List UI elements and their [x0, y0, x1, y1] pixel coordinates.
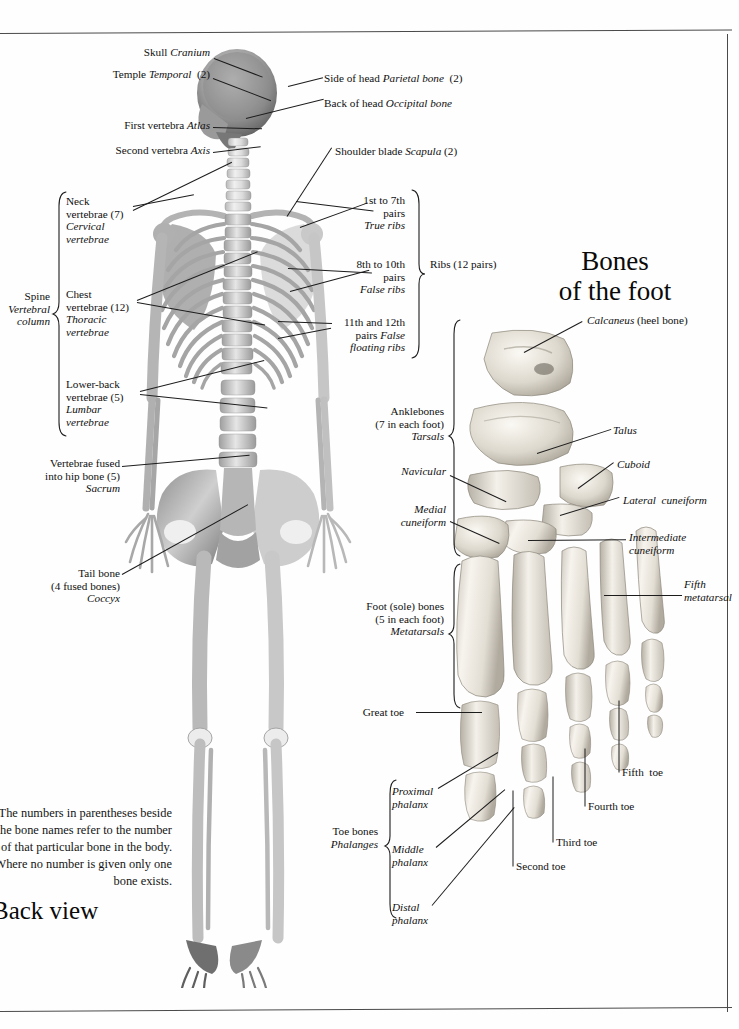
label-sacrum: Vertebrae fusedinto hip bone (5)Sacrum — [0, 457, 120, 495]
label-temple: Temple Temporal (2) — [20, 68, 210, 81]
numbers-explanation-note: The numbers in parentheses besidethe bon… — [0, 805, 172, 890]
pelvis-group — [157, 468, 319, 568]
label-fifth-metatarsal: Fifthmetatarsal — [684, 578, 739, 603]
navicular-bone — [468, 470, 541, 509]
page-border-right — [727, 34, 728, 1012]
label-calcaneus: Calcaneus (heel bone) — [587, 314, 737, 327]
brace-ribs — [410, 188, 426, 360]
label-navicular: Navicular — [330, 465, 446, 478]
label-second-toe: Second toe — [516, 860, 606, 873]
label-great-toe: Great toe — [300, 706, 404, 719]
brace-spine — [52, 190, 68, 438]
skull-group — [197, 49, 277, 150]
label-talus: Talus — [613, 424, 703, 437]
label-tarsals: Anklebones(7 in each foot)Tarsals — [348, 405, 444, 443]
label-cuboid: Cuboid — [617, 458, 707, 471]
label-middle-phalanx: Middlephalanx — [392, 843, 464, 868]
label-true-ribs: 1st to 7thpairsTrue ribs — [340, 194, 405, 232]
heading-back-view: Back view — [0, 897, 192, 924]
talus-bone — [470, 402, 573, 465]
label-thoracic-vertebrae: Chestvertebrae (12)Thoracicvertebrae — [66, 288, 156, 338]
label-first-vertebra: First vertebra Atlas — [20, 119, 210, 132]
label-skull: Skull Cranium — [30, 46, 210, 59]
label-side-of-head: Side of head Parietal bone (2) — [324, 72, 554, 85]
label-spine: SpineVertebralcolumn — [0, 290, 50, 328]
page-canvas: Skull Cranium Temple Temporal (2) First … — [0, 0, 739, 1029]
label-third-toe: Third toe — [556, 836, 646, 849]
label-distal-phalanx: Distalphalanx — [392, 901, 464, 926]
lumbar-spine-group — [219, 380, 257, 467]
leader-third-toe — [553, 777, 554, 843]
label-coccyx: Tail bone(4 fused bones)Coccyx — [0, 567, 120, 605]
label-back-of-head: Back of head Occipital bone — [324, 97, 554, 110]
label-phalanges: Toe bonesPhalanges — [294, 825, 378, 850]
label-floating-ribs: 11th and 12thpairs Falsefloating ribs — [332, 316, 405, 354]
leader-fourth-toe — [585, 749, 586, 807]
heading-bones-of-the-foot: Bonesof the foot — [515, 246, 715, 306]
label-fifth-toe: Fifth toe — [622, 766, 712, 779]
medial-cuneiform-bone — [454, 516, 509, 558]
label-shoulder-blade: Shoulder blade Scapula (2) — [335, 145, 565, 158]
label-medial-cuneiform: Medialcuneiform — [330, 503, 446, 528]
intermediate-cuneiform-bone — [502, 520, 556, 554]
page-border-top — [0, 29, 732, 34]
leader-fifth-toe — [619, 701, 620, 773]
leader-fifth-metatarsal — [604, 595, 682, 596]
label-intermediate-cuneiform: Intermediatecuneiform — [629, 531, 739, 556]
calcaneus-bone — [484, 330, 573, 396]
leader-great-toe — [416, 712, 482, 713]
label-fourth-toe: Fourth toe — [588, 800, 678, 813]
legs-group — [182, 558, 288, 988]
leader-second-toe — [513, 791, 514, 867]
page-border-bottom — [0, 1007, 732, 1012]
label-lumbar-vertebrae: Lower-backvertebrae (5)Lumbarvertebrae — [66, 378, 161, 428]
label-false-ribs: 8th to 10thpairsFalse ribs — [340, 258, 405, 296]
label-lateral-cuneiform: Lateral cuneiform — [623, 494, 739, 507]
brace-metatarsals — [448, 562, 462, 710]
label-cervical-vertebrae: Neckvertebrae (7)Cervicalvertebrae — [66, 195, 156, 245]
label-second-vertebra: Second vertebra Axis — [20, 144, 210, 157]
brace-tarsals — [448, 318, 462, 558]
label-metatarsals: Foot (sole) bones(5 in each foot)Metatar… — [334, 600, 444, 638]
label-proximal-phalanx: Proximalphalanx — [392, 785, 464, 810]
